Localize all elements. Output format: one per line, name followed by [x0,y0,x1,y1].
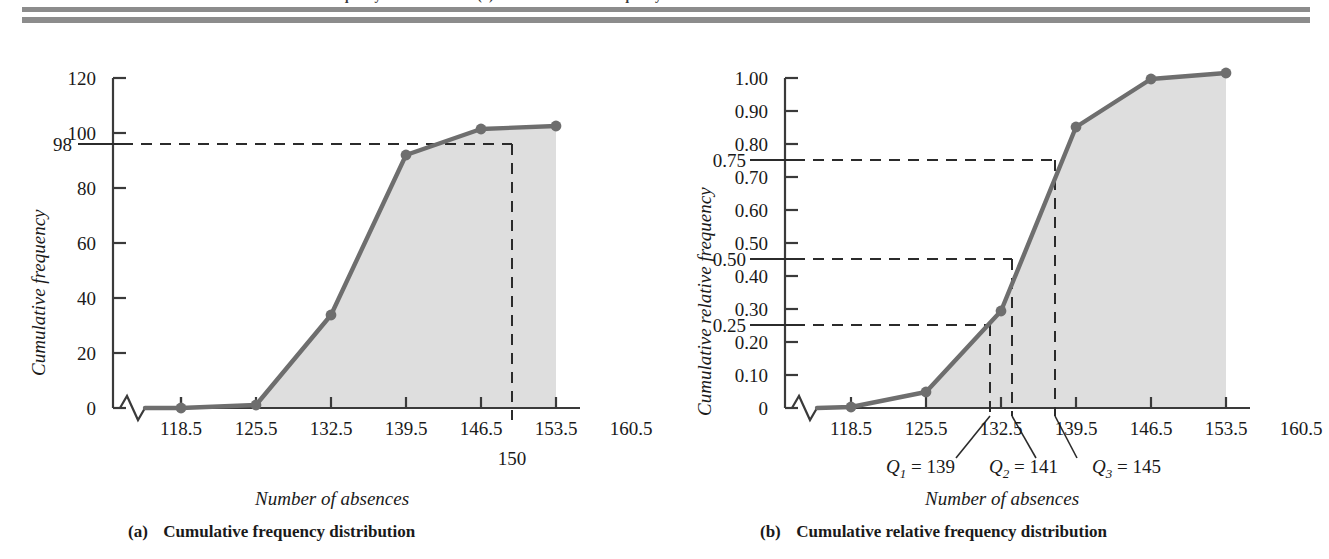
caption-a: (a) Cumulative frequency distribution [128,522,415,542]
y-tick-label-a-0: 0 [34,398,96,420]
reference-label-150: 150 [472,448,552,470]
quartile-label-q2: Q2 = 141 [989,456,1058,482]
y-axis-title-a: Cumulative frequency [28,209,50,376]
y-tick-label-a-80: 80 [34,178,96,200]
x-tick-label-b-1255: 125.5 [886,418,966,440]
quartile-q2-symbol: Q [989,456,1003,477]
reference-label-075: 0.75 [674,150,746,172]
caption-a-text: Cumulative frequency distribution [163,522,415,541]
header-rule-top [22,7,1310,12]
quartile-q1-value: 139 [926,456,955,477]
x-axis-title-a: Number of absences [255,488,409,510]
quartile-q3-symbol: Q [1092,456,1106,477]
y-axis-title-b: Cumulative relative frequency [694,187,716,416]
x-tick-label-b-1465: 146.5 [1111,418,1191,440]
x-tick-label-a-1395: 139.5 [366,418,446,440]
quartile-q2-value: 141 [1029,456,1058,477]
caption-b: (b) Cumulative relative frequency distri… [760,522,1107,542]
quartile-q1-equals: = [911,456,922,477]
x-tick-label-b-1325: 132.5 [961,418,1041,440]
caption-b-marker: (b) [760,522,781,541]
header-rule-bottom [22,17,1310,23]
panel-cumulative-frequency: 0 20 40 60 80 100 120 98 118.5 125.5 132… [0,26,665,546]
y-ticks-b [785,78,798,408]
panel-cumulative-relative-frequency: 0 0.10 0.20 0.30 0.40 0.50 0.60 0.70 0.8… [664,26,1329,546]
x-axis-title-b: Number of absences [925,488,1079,510]
x-tick-label-b-1535: 153.5 [1186,418,1266,440]
quartile-q1-symbol: Q [886,456,900,477]
caption-a-marker: (a) [128,522,148,541]
x-tick-label-b-1185: 118.5 [811,418,891,440]
x-tick-label-a-1255: 125.5 [216,418,296,440]
quartile-q3-value: 145 [1132,456,1161,477]
quartile-label-q1: Q1 = 139 [886,456,955,482]
figure-page: requency distribution and (b) cumulative… [0,0,1329,559]
caption-b-text: Cumulative relative frequency distributi… [796,522,1107,541]
chart-a-canvas [0,26,665,546]
x-tick-label-b-1395: 139.5 [1036,418,1116,440]
y-ticks-a [113,78,126,408]
quartile-q3-equals: = [1117,456,1128,477]
header-sliver-label: requency distribution and (b) cumulative… [330,0,970,4]
quartile-label-q3: Q3 = 145 [1092,456,1161,482]
x-tick-label-a-1535: 153.5 [516,418,596,440]
y-tick-label-b-090: 0.90 [698,101,768,123]
x-tick-label-b-1605: 160.5 [1261,418,1329,440]
x-tick-label-a-1465: 146.5 [441,418,521,440]
x-tick-label-a-1325: 132.5 [291,418,371,440]
header-text-sliver: requency distribution and (b) cumulative… [0,0,1329,6]
x-tick-label-a-1185: 118.5 [141,418,221,440]
quartile-q2-equals: = [1014,456,1025,477]
y-tick-label-b-100: 1.00 [698,68,768,90]
reference-label-98: 98 [8,134,72,156]
x-tick-label-a-1605: 160.5 [591,418,671,440]
y-tick-label-a-120: 120 [34,68,96,90]
